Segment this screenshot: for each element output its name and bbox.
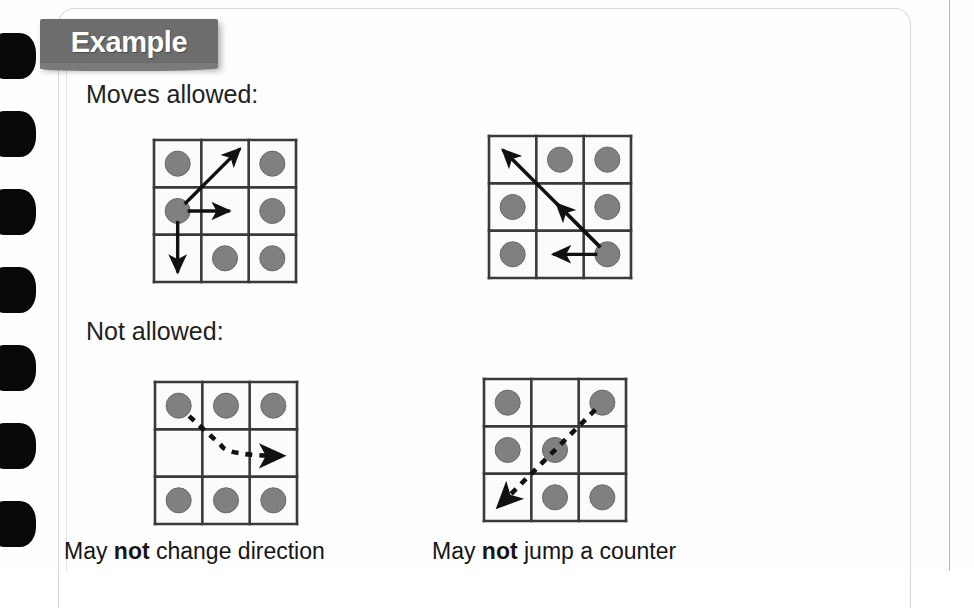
binding-hole — [0, 111, 36, 157]
page-right-rule — [949, 0, 950, 571]
not-allowed-grid-change-direction — [129, 356, 323, 550]
caption-left-prefix: May — [64, 538, 114, 564]
binding-hole — [0, 345, 36, 391]
binding-hole — [0, 33, 36, 79]
moves-allowed-grid-1 — [128, 114, 322, 308]
binding-hole — [0, 501, 36, 547]
page-margin-rule — [66, 66, 67, 571]
moves-allowed-grid-2 — [463, 110, 657, 304]
not-allowed-grid-jump-counter — [458, 353, 652, 547]
binding-hole — [0, 189, 36, 235]
example-banner-label: Example — [40, 26, 218, 59]
binding-hole — [0, 267, 36, 313]
heading-moves-allowed: Moves allowed: — [86, 80, 258, 109]
example-banner: Example — [40, 19, 218, 67]
binding-hole — [0, 423, 36, 469]
heading-not-allowed: Not allowed: — [86, 317, 224, 346]
